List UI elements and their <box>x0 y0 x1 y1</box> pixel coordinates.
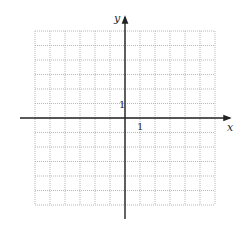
x-axis-label: x <box>227 121 234 134</box>
y-tick-label-1: 1 <box>119 99 125 110</box>
coordinate-plane: x y 1 1 <box>0 0 244 232</box>
y-axis-label: y <box>113 12 121 25</box>
x-tick-label-1: 1 <box>137 121 143 132</box>
